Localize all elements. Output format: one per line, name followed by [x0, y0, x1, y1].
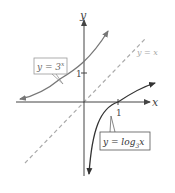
log-curve-upper: [118, 83, 155, 102]
log-label-leader-2: [111, 116, 115, 132]
exp-curve: [20, 79, 60, 99]
exp-label: y = 3x: [36, 60, 65, 72]
graph-canvas: y x 1 1 y = 3x y = log3x y = x: [0, 0, 175, 193]
y-tick-label: 1: [76, 69, 82, 79]
function-graph: y x 1 1 y = 3x y = log3x y = x: [0, 0, 175, 193]
log-label-leader: [110, 116, 111, 132]
x-axis-label: x: [152, 96, 159, 109]
identity-label: y = x: [136, 48, 158, 57]
exp-label-leader-2: [52, 74, 63, 84]
y-axis-label: y: [79, 9, 87, 22]
x-tick-label: 1: [116, 108, 122, 118]
